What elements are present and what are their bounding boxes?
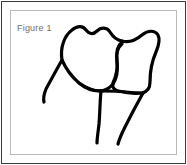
center-root bbox=[97, 91, 101, 143]
left-root bbox=[44, 60, 62, 102]
figure-panel: Figure 1 bbox=[0, 0, 187, 165]
right-root bbox=[118, 93, 143, 144]
figure-caption: Figure 1 bbox=[17, 23, 52, 34]
